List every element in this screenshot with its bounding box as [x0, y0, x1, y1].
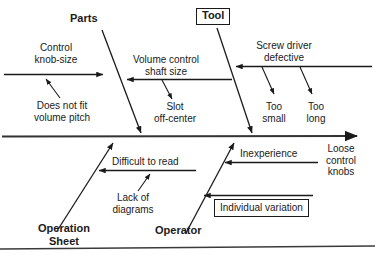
bone-operator [186, 143, 234, 233]
cause-label-volume-control-shaft-size-line1: Volume control [118, 54, 214, 66]
subcause-lack-of-diagrams-line [138, 174, 150, 191]
subcause-slot-off-center-line [162, 80, 172, 99]
subcause-label-too-long-line2: long [294, 113, 338, 125]
fishbone-diagram: Parts Control knob-size Does not fit vol… [0, 0, 375, 259]
subcause-label-does-not-fit-line2: volume pitch [16, 112, 108, 124]
cause-label-screw-driver-defective-line1: Screw driver [240, 40, 328, 52]
cause-label-individual-variation: Individual variation [214, 199, 309, 217]
diagram-lines-layer [0, 0, 375, 259]
spine-line [2, 136, 357, 137]
effect-label: Loose control knobs [312, 143, 370, 178]
cause-label-difficult-to-read: Difficult to read [112, 156, 179, 168]
subcause-label-lack-of-diagrams-line1: Lack of [96, 192, 170, 204]
cause-label-control-knob-size: Control knob-size [14, 42, 98, 65]
subcause-label-too-long-line1: Too [294, 101, 338, 113]
subcause-label-too-small: Too small [250, 101, 298, 124]
subcause-label-too-small-line1: Too [250, 101, 298, 113]
category-label-operator: Operator [155, 224, 201, 237]
subcause-too-long-line [300, 67, 312, 94]
effect-label-line3: knobs [312, 166, 370, 178]
cause-label-volume-control-shaft-size: Volume control shaft size [118, 54, 214, 77]
cause-label-screw-driver-defective: Screw driver defective [240, 40, 328, 63]
subcause-label-too-long: Too long [294, 101, 338, 124]
subcause-label-slot-off-center: Slot off-center [140, 101, 210, 124]
cause-label-volume-control-shaft-size-line2: shaft size [118, 66, 214, 78]
category-label-operation-sheet-line2: Sheet [22, 235, 106, 248]
category-label-parts: Parts [70, 12, 98, 25]
category-label-operation-sheet: Operation Sheet [22, 222, 106, 248]
subcause-label-does-not-fit-line1: Does not fit [16, 100, 108, 112]
cause-label-control-knob-size-line2: knob-size [14, 54, 98, 66]
effect-label-line1: Loose [312, 143, 370, 155]
subcause-label-slot-off-center-line2: off-center [140, 113, 210, 125]
subcause-too-small-line [262, 67, 274, 94]
subcause-label-lack-of-diagrams: Lack of diagrams [96, 192, 170, 215]
subcause-does-not-fit-line [46, 79, 60, 98]
bone-operation-sheet [57, 143, 113, 231]
cause-label-inexperience: Inexperience [240, 148, 297, 160]
cause-label-screw-driver-defective-line2: defective [240, 52, 328, 64]
category-label-tool: Tool [196, 8, 230, 25]
effect-label-line2: control [312, 155, 370, 167]
subcause-label-slot-off-center-line1: Slot [140, 101, 210, 113]
cause-label-control-knob-size-line1: Control [14, 42, 98, 54]
subcause-label-does-not-fit-volume-pitch: Does not fit volume pitch [16, 100, 108, 123]
category-label-operation-sheet-line1: Operation [22, 222, 106, 235]
subcause-label-too-small-line2: small [250, 113, 298, 125]
subcause-label-lack-of-diagrams-line2: diagrams [96, 204, 170, 216]
